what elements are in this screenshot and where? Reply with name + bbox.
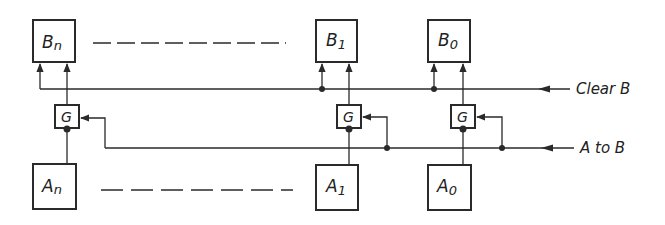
junction-clear-b0: [431, 86, 437, 92]
a-to-b-arrow-icon: [541, 145, 553, 152]
label-gn: G: [61, 109, 72, 125]
gate-g1-input-dot: [346, 126, 353, 133]
junction-atob-g0: [499, 145, 505, 151]
signal-label-clear-b: Clear B: [576, 80, 630, 98]
gate-g0-input-dot: [460, 126, 467, 133]
gate-gn-input-dot: [64, 126, 71, 133]
signal-label-a-to-b: A to B: [579, 139, 625, 157]
label-g0: G: [457, 109, 468, 125]
label-g1: G: [343, 109, 354, 125]
junction-clear-b1: [319, 86, 325, 92]
register-transfer-diagram: Bn B1 B0 An A1 A0 G G G Clear B A to B: [0, 0, 665, 225]
junction-atob-g1: [384, 145, 390, 151]
clear-b-arrow-icon: [538, 86, 550, 93]
